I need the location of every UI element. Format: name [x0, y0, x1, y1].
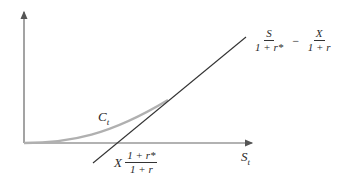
intrinsic-value-line — [93, 37, 246, 163]
asymptote-label: S1 + r* − X1 + r — [253, 28, 333, 53]
x-axis-label: St — [241, 150, 250, 167]
diagram-canvas — [0, 0, 348, 178]
curve-label: Ct — [98, 110, 109, 127]
option-value-curve — [24, 100, 168, 143]
intercept-label: X 1 + r*1 + r — [114, 150, 157, 175]
